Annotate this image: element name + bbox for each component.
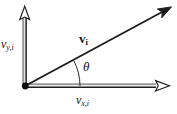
x-component-subscript: x,i [81, 99, 89, 108]
vector-label-subscript: i [86, 37, 88, 47]
vector-components-figure: vy,i vx,i vi θ [0, 0, 177, 114]
y-component-subscript: y,i [6, 43, 13, 52]
origin-dot-icon [22, 83, 29, 90]
y-component-label: vy,i [1, 38, 14, 52]
angle-label: θ [83, 60, 89, 73]
vector-label: vi [79, 32, 88, 47]
x-component-label: vx,i [76, 94, 89, 108]
